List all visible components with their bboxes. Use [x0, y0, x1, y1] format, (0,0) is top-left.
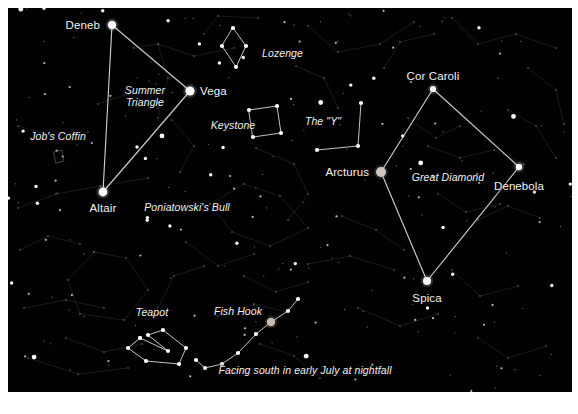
background-star	[10, 281, 13, 284]
background-star	[388, 368, 389, 369]
faint-star	[527, 67, 529, 69]
faint-star	[293, 163, 295, 165]
asterism-line-teapot	[128, 330, 186, 364]
faint-star	[375, 229, 377, 231]
asterism-vertex-star	[236, 351, 240, 355]
faint-constellation-line	[218, 304, 286, 316]
background-star	[255, 187, 256, 188]
faint-constellation-line	[244, 276, 308, 292]
faint-constellation-line	[20, 236, 80, 250]
background-star	[515, 369, 516, 370]
background-star	[320, 247, 321, 248]
faint-constellation-line	[158, 266, 204, 308]
background-star	[299, 41, 301, 43]
faint-star	[555, 47, 557, 49]
background-star	[349, 83, 352, 86]
faint-star	[349, 255, 351, 257]
faint-star	[253, 253, 255, 255]
background-star	[371, 290, 372, 291]
asterism-vertex-star	[296, 297, 300, 301]
faint-star	[19, 249, 21, 251]
faint-constellation-line	[210, 184, 308, 246]
faint-star	[217, 265, 219, 267]
background-star	[136, 77, 137, 78]
background-star	[410, 81, 412, 83]
asterism-vertex-star	[194, 358, 198, 362]
background-star	[403, 277, 405, 279]
background-star	[476, 173, 478, 175]
background-star	[168, 224, 171, 227]
background-star	[259, 195, 261, 197]
background-star	[194, 315, 196, 317]
background-star	[533, 190, 536, 193]
faint-star	[337, 107, 339, 109]
star-arcturus	[376, 167, 386, 177]
background-star	[408, 195, 409, 196]
star-spica	[423, 277, 431, 285]
faint-star	[399, 325, 401, 327]
background-star	[337, 41, 338, 42]
faint-star	[67, 279, 69, 281]
background-star	[252, 216, 254, 218]
background-star	[16, 119, 17, 120]
faint-star	[193, 55, 195, 57]
faint-star	[127, 367, 129, 369]
star-vega	[185, 86, 194, 95]
faint-star	[451, 269, 453, 271]
faint-star	[141, 343, 143, 345]
background-star	[291, 140, 292, 141]
background-star	[83, 253, 84, 254]
asterism-vertex-star	[138, 336, 142, 340]
asterism-vertex-star	[279, 131, 283, 135]
faint-constellation-line	[134, 44, 168, 118]
faint-star	[563, 123, 565, 125]
background-star	[166, 19, 169, 22]
background-star	[44, 93, 46, 95]
background-star	[34, 185, 37, 188]
faint-star	[279, 195, 281, 197]
faint-constellation-line	[256, 148, 308, 220]
faint-constellation-line	[28, 358, 128, 374]
background-star	[108, 365, 109, 366]
background-star	[168, 187, 169, 188]
background-star	[381, 123, 383, 125]
faint-star	[413, 21, 415, 23]
faint-constellation-line	[408, 118, 460, 138]
background-star	[335, 42, 337, 44]
background-star	[570, 196, 571, 197]
background-star	[560, 226, 561, 227]
faint-constellation-line	[296, 66, 338, 108]
background-star	[541, 125, 542, 126]
background-star	[294, 262, 297, 265]
background-star	[501, 40, 502, 41]
background-star	[185, 18, 186, 19]
background-star	[466, 220, 467, 221]
faint-constellation-line	[452, 18, 556, 48]
faint-star	[17, 207, 19, 209]
background-star	[343, 93, 344, 94]
background-star	[69, 369, 70, 370]
background-star	[57, 192, 58, 193]
faint-star	[233, 47, 235, 49]
faint-star	[55, 193, 57, 195]
asterism-vertex-star	[166, 349, 170, 353]
faint-star	[493, 149, 495, 151]
background-star	[520, 41, 521, 42]
background-star	[454, 332, 455, 333]
asterism-vertex-star	[315, 148, 319, 152]
background-star	[496, 365, 497, 366]
faint-star	[133, 47, 135, 49]
asterism-lines	[54, 25, 519, 370]
background-star	[135, 325, 136, 326]
background-star	[59, 209, 61, 211]
background-star	[481, 110, 482, 111]
background-star	[158, 73, 159, 74]
background-star	[418, 331, 419, 332]
faint-star	[179, 171, 181, 173]
background-star	[293, 24, 294, 25]
faint-constellation-line	[428, 146, 524, 164]
background-star	[303, 202, 304, 203]
background-star	[339, 124, 340, 125]
faint-constellation-line	[384, 34, 434, 68]
background-star	[36, 202, 39, 205]
